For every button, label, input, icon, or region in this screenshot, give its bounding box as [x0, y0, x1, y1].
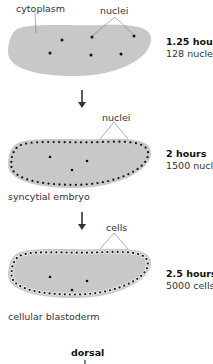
nucleus [11, 156, 13, 158]
nucleus [16, 257, 18, 259]
nucleus [85, 141, 87, 143]
nucleus [21, 176, 23, 178]
nucleus [118, 141, 120, 143]
nucleus [42, 182, 44, 184]
nucleus [146, 267, 148, 269]
nucleus [118, 286, 120, 288]
nucleus [71, 251, 73, 253]
cells-label: cells [106, 222, 127, 233]
nucleus [31, 180, 33, 182]
nucleus [45, 251, 47, 253]
dorsal-label: dorsal [71, 347, 104, 358]
stage-1: cytoplasm nuclei 1.25 hours 128 nuclei [8, 3, 213, 76]
nucleus [28, 289, 30, 291]
stage-2: nuclei 2 hours 1500 nuclei syncytial emb… [8, 112, 213, 202]
nucleus [13, 170, 15, 172]
nucleus [24, 287, 26, 289]
nucleus [58, 141, 60, 143]
stage-2-time: 2 hours [166, 148, 207, 159]
nucleus [36, 141, 38, 143]
nucleus [26, 178, 28, 180]
nucleus [40, 251, 42, 253]
nucleus [31, 142, 33, 144]
cellular-blastoderm-label: cellular blastoderm [8, 311, 100, 322]
nucleus [30, 252, 32, 254]
nucleus [54, 293, 56, 295]
nucleus [55, 251, 57, 253]
nucleus [143, 271, 145, 273]
nucleus [66, 251, 68, 253]
nucleus [122, 175, 124, 177]
nucleus [107, 141, 109, 143]
nucleus [79, 293, 81, 295]
stage-1-count: 128 nuclei [166, 48, 213, 59]
nucleus [10, 161, 12, 163]
nucleus [76, 252, 78, 254]
nuclei-label-2: nuclei [102, 112, 130, 123]
nucleus [112, 179, 114, 181]
nucleus [102, 181, 104, 183]
nucleus [53, 141, 55, 143]
nucleus [42, 141, 44, 143]
nucleus [107, 180, 109, 182]
nucleus [132, 280, 134, 282]
nucleus [124, 141, 126, 143]
nucleus [114, 288, 116, 290]
nucleus [140, 275, 142, 277]
nucleus [111, 251, 113, 253]
nucleus [25, 142, 27, 144]
drosophila-development-diagram: cytoplasm nuclei 1.25 hours 128 nuclei n… [0, 0, 213, 364]
nucleus [99, 291, 101, 293]
nucleus [117, 251, 119, 253]
embryo-1 [8, 25, 151, 76]
nucleus [127, 251, 129, 253]
nucleus [35, 252, 37, 254]
nucleus [19, 285, 21, 287]
nucleus [91, 141, 93, 143]
stage-3-time: 2.5 hours [166, 268, 213, 279]
arrow-down-icon [78, 212, 86, 230]
nucleus [136, 168, 138, 170]
nucleus [64, 184, 66, 186]
stage-3-count: 5000 cells [166, 280, 213, 291]
nucleus [96, 141, 98, 143]
nucleus [12, 279, 14, 281]
nucleus [86, 252, 88, 254]
nucleus [91, 183, 93, 185]
stage-1-time: 1.25 hours [166, 36, 213, 47]
nucleus [74, 293, 76, 295]
nucleus [15, 282, 17, 284]
nucleus [74, 141, 76, 143]
nucleus [91, 251, 93, 253]
nucleus [47, 141, 49, 143]
nucleus [135, 142, 137, 144]
nucleus [20, 144, 22, 146]
nucleus [53, 183, 55, 185]
nucleus [129, 141, 131, 143]
nucleus [13, 151, 15, 153]
nucleus [37, 181, 39, 183]
nucleus [94, 292, 96, 294]
nucleus [141, 165, 143, 167]
nucleus [96, 182, 98, 184]
nucleus [64, 293, 66, 295]
nucleus [96, 251, 98, 253]
nucleus [13, 261, 15, 263]
embryo-2 [8, 139, 151, 188]
nucleus [132, 171, 134, 173]
nucleus [145, 258, 147, 260]
nucleus [132, 252, 134, 254]
nucleus [89, 293, 91, 295]
nucleus [113, 141, 115, 143]
cytoplasm-label: cytoplasm [16, 3, 65, 14]
nucleus [144, 161, 146, 163]
nucleus [137, 253, 139, 255]
nuclei-label-1: nuclei [100, 5, 128, 16]
nucleus [104, 290, 106, 292]
nucleus [146, 156, 148, 158]
nucleus [80, 184, 82, 186]
stage-3: cells 2.5 hours 5000 cells cellular blas… [8, 222, 213, 322]
nucleus [20, 254, 22, 256]
nucleus [69, 141, 71, 143]
nucleus [33, 290, 35, 292]
